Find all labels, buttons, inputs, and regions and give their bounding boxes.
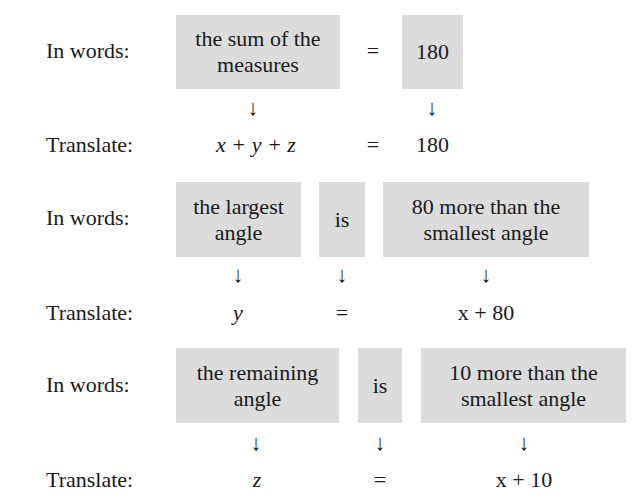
equals-sign: = bbox=[327, 300, 357, 326]
phrase-box: is bbox=[358, 348, 402, 423]
phrase-box: 80 more than the smallest angle bbox=[383, 182, 589, 257]
phrase-text: the remaining angle bbox=[178, 360, 338, 412]
down-arrow-icon: ↓ bbox=[223, 264, 253, 286]
phrase-box: the remaining angle bbox=[176, 348, 339, 423]
phrase-text: 180 bbox=[416, 39, 449, 65]
expression: y bbox=[208, 300, 268, 326]
in-words-label: In words: bbox=[46, 205, 130, 231]
down-arrow-icon: ↓ bbox=[238, 97, 268, 119]
in-words-label: In words: bbox=[46, 38, 130, 64]
down-arrow-icon: ↓ bbox=[365, 432, 395, 454]
equals-sign: = bbox=[358, 132, 388, 158]
equals-sign: = bbox=[358, 38, 388, 64]
translate-label: Translate: bbox=[46, 132, 133, 158]
expression: x + y + z bbox=[196, 132, 316, 158]
phrase-text: is bbox=[373, 373, 388, 399]
expression: z bbox=[227, 467, 287, 493]
translate-label: Translate: bbox=[46, 300, 133, 326]
expression: x + 80 bbox=[436, 300, 536, 326]
phrase-box: is bbox=[319, 182, 365, 257]
phrase-box: the largest angle bbox=[176, 182, 301, 257]
phrase-text: the sum of the measures bbox=[193, 26, 323, 78]
equals-sign: = bbox=[365, 467, 395, 493]
phrase-text: is bbox=[335, 207, 350, 233]
translate-label: Translate: bbox=[46, 467, 133, 493]
phrase-box: 10 more than the smallest angle bbox=[421, 348, 626, 423]
expression: 180 bbox=[402, 132, 463, 158]
down-arrow-icon: ↓ bbox=[327, 264, 357, 286]
down-arrow-icon: ↓ bbox=[241, 432, 271, 454]
phrase-box: the sum of the measures bbox=[176, 15, 340, 89]
phrase-text: 80 more than the smallest angle bbox=[391, 194, 581, 246]
in-words-label: In words: bbox=[46, 372, 130, 398]
phrase-box: 180 bbox=[402, 15, 463, 89]
phrase-text: 10 more than the smallest angle bbox=[429, 360, 619, 412]
down-arrow-icon: ↓ bbox=[417, 97, 447, 119]
down-arrow-icon: ↓ bbox=[471, 264, 501, 286]
down-arrow-icon: ↓ bbox=[509, 432, 539, 454]
expression: x + 10 bbox=[474, 467, 574, 493]
phrase-text: the largest angle bbox=[179, 194, 299, 246]
